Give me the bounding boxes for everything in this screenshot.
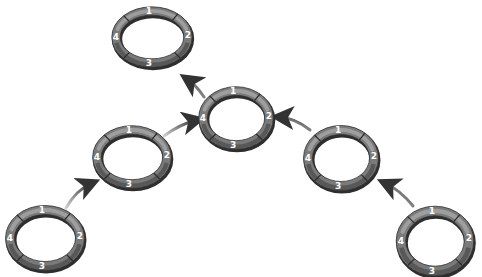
ring-mid-left: 1234 bbox=[93, 125, 172, 189]
ring-top-left: 1234 bbox=[112, 6, 192, 68]
segment-label-1: 1 bbox=[146, 6, 152, 16]
segment-label-4: 4 bbox=[94, 152, 100, 162]
segment-label-2: 2 bbox=[266, 111, 272, 121]
ring-center: 1234 bbox=[199, 86, 274, 150]
diagram-canvas: 123412341234123412341234 bbox=[0, 0, 482, 277]
ring-outline bbox=[406, 216, 464, 266]
arrow-mid-left-to-center bbox=[164, 120, 197, 136]
segment-label-3: 3 bbox=[39, 261, 45, 271]
segment-label-4: 4 bbox=[7, 233, 13, 243]
segment-label-2: 2 bbox=[185, 30, 191, 40]
segment-label-4: 4 bbox=[113, 32, 119, 42]
segment-label-1: 1 bbox=[335, 125, 341, 135]
arrow-bottom-right-to-mid-right bbox=[385, 183, 413, 206]
segment-label-1: 1 bbox=[429, 206, 435, 216]
segment-label-2: 2 bbox=[77, 231, 83, 241]
segment-label-3: 3 bbox=[230, 140, 236, 150]
arrow-center-to-top-left bbox=[187, 79, 204, 97]
arrow-bottom-left-to-mid-left bbox=[66, 183, 92, 208]
segment-label-2: 2 bbox=[164, 150, 170, 160]
segment-label-4: 4 bbox=[305, 153, 311, 163]
segment-label-3: 3 bbox=[126, 179, 132, 189]
segment-label-1: 1 bbox=[39, 205, 45, 215]
segment-label-4: 4 bbox=[200, 113, 206, 123]
ring-bottom-left: 1234 bbox=[6, 205, 85, 271]
segment-label-1: 1 bbox=[126, 125, 132, 135]
segment-label-3: 3 bbox=[146, 58, 152, 68]
ring-bottom-right: 1234 bbox=[396, 206, 474, 276]
ring-outline bbox=[120, 15, 184, 59]
ring-outline bbox=[312, 134, 369, 181]
arrow-mid-right-to-center bbox=[279, 117, 310, 130]
segment-label-3: 3 bbox=[429, 266, 435, 276]
segment-label-4: 4 bbox=[398, 236, 404, 246]
segment-label-2: 2 bbox=[466, 233, 472, 243]
segment-label-1: 1 bbox=[230, 86, 236, 96]
rings-group: 123412341234123412341234 bbox=[6, 6, 474, 276]
segment-label-3: 3 bbox=[335, 181, 341, 191]
ring-outline bbox=[101, 134, 162, 179]
ring-mid-right: 1234 bbox=[304, 125, 379, 191]
segment-label-2: 2 bbox=[371, 151, 377, 161]
ring-outline bbox=[207, 95, 264, 140]
ring-outline bbox=[14, 214, 75, 261]
